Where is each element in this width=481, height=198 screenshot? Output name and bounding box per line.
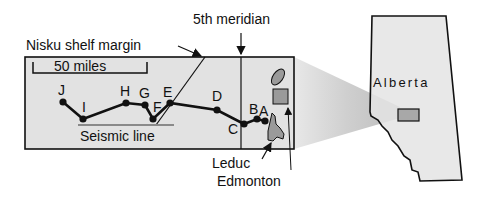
scale-label: 50 miles (54, 58, 106, 74)
seismic-line-label: Seismic line (80, 128, 155, 144)
point-label-d: D (212, 88, 222, 104)
shelf-margin-arrow (178, 46, 201, 56)
point-label-c: C (228, 121, 238, 137)
map-diagram: Alberta 5th meridian Nisku shelf margin … (0, 0, 481, 198)
point-label-a: A (259, 103, 269, 119)
point-label-f: F (153, 99, 162, 115)
point-label-h: H (120, 83, 130, 99)
alberta-province-outline (370, 16, 462, 181)
meridian-label: 5th meridian (193, 11, 270, 27)
study-area-marker (398, 109, 419, 121)
edmonton-label: Edmonton (217, 173, 281, 189)
edmonton-area (273, 89, 288, 104)
point-label-g: G (139, 85, 150, 101)
alberta-label: Alberta (373, 75, 430, 90)
point-label-j: J (58, 82, 65, 98)
point-label-e: E (163, 84, 172, 100)
point-label-b: B (249, 101, 258, 117)
point-label-i: I (82, 99, 86, 115)
shelf-margin-label: Nisku shelf margin (26, 37, 141, 53)
leduc-label: Leduc (212, 155, 250, 171)
